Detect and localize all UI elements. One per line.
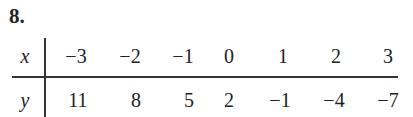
row-label-x: x bbox=[5, 45, 45, 68]
x-value: 3 bbox=[368, 45, 408, 68]
y-value: 11 bbox=[58, 89, 98, 112]
y-value: 8 bbox=[116, 89, 156, 112]
row-label-y: y bbox=[5, 89, 45, 112]
y-value: −1 bbox=[260, 89, 300, 112]
y-value: −7 bbox=[368, 89, 408, 112]
horizontal-rule bbox=[12, 76, 398, 78]
x-value: −1 bbox=[163, 45, 203, 68]
y-value: −4 bbox=[314, 89, 354, 112]
x-value: 0 bbox=[209, 45, 249, 68]
problem-number: 8. bbox=[9, 4, 25, 29]
x-value: −2 bbox=[110, 45, 150, 68]
x-value: 2 bbox=[316, 45, 356, 68]
x-value: 1 bbox=[263, 45, 303, 68]
y-value: 5 bbox=[169, 89, 209, 112]
x-value: −3 bbox=[56, 45, 96, 68]
y-value: 2 bbox=[209, 89, 249, 112]
